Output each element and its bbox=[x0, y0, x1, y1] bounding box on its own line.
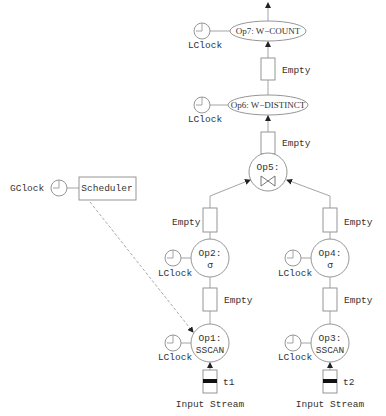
query-plan-diagram: Op7: W−COUNT LClock Empty Op6: W−DISTINC… bbox=[0, 0, 386, 416]
op1-clock-icon bbox=[165, 335, 191, 351]
op6-clock-icon bbox=[194, 97, 228, 113]
op5-node[interactable]: Op5: bbox=[249, 153, 287, 191]
op2-lclock-label: LClock bbox=[158, 268, 193, 279]
op2-node[interactable]: Op2: σ bbox=[191, 239, 229, 277]
op2-symbol: σ bbox=[207, 260, 213, 271]
t2-label: t2 bbox=[343, 377, 355, 388]
op3-node[interactable]: Op3: SSCAN bbox=[311, 324, 349, 362]
buffer-op4-op5-label: Empty bbox=[344, 217, 373, 228]
op2-clock-icon bbox=[165, 250, 191, 266]
op7-node[interactable]: Op7: W−COUNT bbox=[230, 21, 306, 41]
op3-lclock-label: LClock bbox=[278, 352, 313, 363]
op4-clock-icon bbox=[285, 250, 311, 266]
op7-lclock-label: LClock bbox=[188, 40, 223, 51]
op4-lclock-label: LClock bbox=[278, 268, 313, 279]
buffer-op5-op6-label: Empty bbox=[282, 138, 311, 149]
op6-node[interactable]: Op6: W−DISTINCT bbox=[228, 95, 308, 115]
op7-clock-icon bbox=[194, 23, 230, 39]
op4-node[interactable]: Op4: σ bbox=[311, 239, 349, 277]
buffer-op4-op5 bbox=[323, 208, 337, 232]
input-buffer-t1 bbox=[203, 370, 217, 393]
scheduler-label: Scheduler bbox=[81, 183, 132, 194]
op1-symbol: SSCAN bbox=[196, 345, 225, 356]
edge-op2-op5 bbox=[210, 180, 250, 208]
op1-node[interactable]: Op1: SSCAN bbox=[191, 324, 229, 362]
buffer-op6-op7 bbox=[261, 58, 275, 80]
input-stream-left-label: Input Stream bbox=[176, 399, 245, 410]
op1-lclock-label: LClock bbox=[158, 352, 193, 363]
buffer-op2-op5-label: Empty bbox=[172, 217, 201, 228]
op4-symbol: σ bbox=[327, 260, 333, 271]
op6-lclock-label: LClock bbox=[188, 114, 223, 125]
op3-symbol: SSCAN bbox=[316, 345, 345, 356]
op6-label: Op6: W−DISTINCT bbox=[231, 100, 306, 110]
scheduler-box[interactable]: Scheduler bbox=[79, 177, 136, 200]
op5-label: Op5: bbox=[257, 162, 280, 173]
op3-clock-icon bbox=[285, 335, 311, 351]
gclock-icon bbox=[51, 180, 79, 196]
op4-label: Op4: bbox=[319, 248, 342, 259]
input-buffer-t2 bbox=[323, 370, 337, 393]
op7-label: Op7: W−COUNT bbox=[236, 26, 301, 36]
buffer-op3-op4 bbox=[323, 288, 337, 311]
edge-op4-op5 bbox=[287, 180, 330, 208]
input-stream-right-label: Input Stream bbox=[296, 399, 365, 410]
buffer-op1-op2-label: Empty bbox=[224, 295, 253, 306]
buffer-op3-op4-label: Empty bbox=[344, 295, 373, 306]
op2-label: Op2: bbox=[199, 248, 222, 259]
buffer-op5-op6 bbox=[261, 132, 275, 154]
op1-label: Op1: bbox=[199, 333, 222, 344]
t1-label: t1 bbox=[223, 377, 235, 388]
buffer-op1-op2 bbox=[203, 288, 217, 311]
op3-label: Op3: bbox=[319, 333, 342, 344]
buffer-op6-op7-label: Empty bbox=[282, 65, 311, 76]
buffer-op2-op5 bbox=[203, 208, 217, 232]
gclock-label: GClock bbox=[10, 183, 45, 194]
